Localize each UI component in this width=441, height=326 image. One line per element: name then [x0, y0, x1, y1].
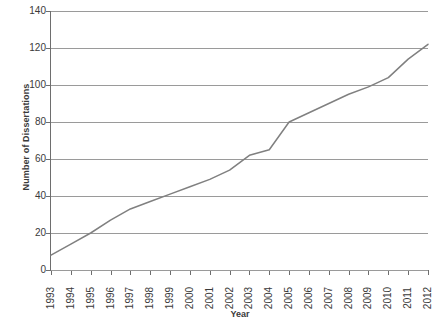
x-axis-tick-labels: 1993199419951996199719981999200020012002… — [51, 277, 429, 311]
x-tick-mark — [71, 271, 72, 275]
x-tick-mark — [428, 271, 429, 275]
x-tick-mark — [249, 271, 250, 275]
x-tick-mark — [349, 271, 350, 275]
y-tick-label: 60 — [16, 154, 46, 164]
series-polyline — [51, 44, 428, 255]
x-tick-mark — [388, 271, 389, 275]
x-tick-mark — [269, 271, 270, 275]
y-tick-label: 20 — [16, 228, 46, 238]
y-tick-label: 120 — [16, 43, 46, 53]
data-series-line — [51, 11, 428, 270]
y-tick-label: 80 — [16, 117, 46, 127]
x-tick-mark — [329, 271, 330, 275]
x-axis-ticks — [51, 271, 429, 276]
x-tick-mark — [190, 271, 191, 275]
x-tick-mark — [51, 271, 52, 275]
x-tick-mark — [289, 271, 290, 275]
y-tick-label: 140 — [16, 6, 46, 16]
x-tick-mark — [210, 271, 211, 275]
line-chart: Number of Dissertations 0204060801001201… — [0, 0, 441, 326]
x-tick-mark — [408, 271, 409, 275]
x-tick-mark — [230, 271, 231, 275]
x-tick-mark — [150, 271, 151, 275]
x-tick-mark — [368, 271, 369, 275]
plot-area — [51, 11, 428, 270]
x-tick-mark — [130, 271, 131, 275]
y-tick-label: 100 — [16, 80, 46, 90]
x-tick-mark — [170, 271, 171, 275]
x-tick-mark — [309, 271, 310, 275]
y-axis-tick-labels: 020406080100120140 — [14, 0, 46, 326]
y-tick-label: 40 — [16, 191, 46, 201]
y-tick-label: 0 — [16, 265, 46, 275]
x-axis-title: Year — [51, 309, 429, 319]
x-tick-mark — [111, 271, 112, 275]
x-tick-mark — [91, 271, 92, 275]
